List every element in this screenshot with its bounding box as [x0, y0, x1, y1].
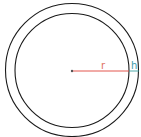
ring-diagram: r h	[0, 0, 141, 137]
radius-label: r	[101, 60, 106, 71]
thickness-label: h	[131, 60, 137, 71]
center-point	[71, 70, 73, 72]
